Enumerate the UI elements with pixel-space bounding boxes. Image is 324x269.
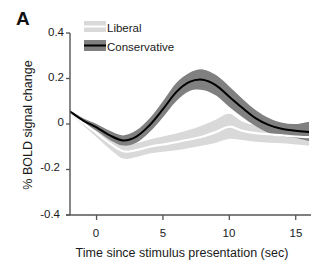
x-tick-3: 15 (281, 227, 311, 239)
y-tick-2: 0 (30, 116, 64, 128)
y-tick-1: 0.2 (30, 71, 64, 83)
x-tick-1: 5 (148, 227, 178, 239)
y-tick-3: -0.2 (26, 161, 60, 173)
y-tick-0: 0.4 (30, 26, 64, 38)
x-axis-label: Time since stimulus presentation (sec) (40, 246, 324, 260)
legend-label-conservative: Conservative (107, 41, 174, 53)
series-group (70, 69, 309, 159)
legend-label-liberal: Liberal (107, 22, 142, 34)
x-tick-0: 0 (81, 227, 111, 239)
x-tick-2: 10 (214, 227, 244, 239)
figure-panel: A % BOLD signal change Time since stimul… (0, 0, 324, 269)
y-tick-4: -0.4 (26, 208, 60, 220)
